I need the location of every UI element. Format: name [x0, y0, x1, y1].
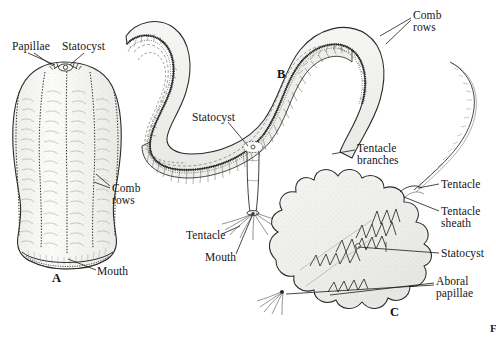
label-text: Statocyst	[62, 40, 105, 52]
label-text: Tentacle	[441, 178, 481, 190]
label-text: Papillae	[12, 40, 50, 52]
label-statocyst-b: Statocyst	[192, 112, 235, 124]
label-text: Statocyst	[441, 247, 484, 259]
label-comb-rows-a: Comb rows	[112, 182, 158, 206]
organism-b-tentacle	[222, 212, 277, 240]
leader-comb-rows-b-2	[386, 20, 411, 44]
panel-letter-text: A	[52, 271, 61, 285]
panel-letter-text: B	[277, 67, 285, 81]
label-line-2: rows	[112, 194, 135, 206]
statocyst-marker-a	[63, 65, 67, 69]
corner-mark-text: F	[490, 322, 496, 334]
label-line-2: rows	[413, 21, 436, 33]
label-aboral-papillae: Aboral papillae	[436, 275, 494, 299]
label-text: Mouth	[97, 265, 128, 277]
leader-papillae-a-2	[34, 53, 53, 66]
label-line-2: branches	[357, 154, 399, 166]
leader-comb-rows-b	[380, 18, 411, 36]
panel-letter-text: C	[390, 305, 399, 319]
panel-letter-b: B	[277, 67, 285, 82]
label-tentacle-branches: Tentacle branches	[357, 142, 415, 166]
organism-b-mouth-region	[247, 152, 259, 215]
label-statocyst-a: Statocyst	[62, 41, 105, 53]
organism-c-oral-tuft	[257, 290, 284, 315]
label-mouth-a: Mouth	[97, 266, 128, 278]
label-papillae-a: Papillae	[12, 41, 50, 53]
label-comb-rows-b: Comb rows	[413, 9, 461, 33]
label-tentacle-sheath: Tentacle sheath	[441, 205, 495, 229]
label-line-2: papillae	[436, 287, 473, 299]
leader-papillae-a	[28, 53, 55, 65]
label-mouth-b: Mouth	[205, 252, 236, 264]
corner-mark: F	[490, 322, 496, 334]
label-line-1: Tentacle	[357, 142, 397, 154]
label-line-1: Comb	[413, 9, 442, 21]
label-line-2: sheath	[441, 217, 471, 229]
label-text: Mouth	[205, 251, 236, 263]
ctenophore-figure: Papillae Statocyst Comb rows Mouth Comb …	[0, 0, 496, 338]
organism-a	[13, 62, 121, 269]
organism-c-tentacle	[414, 62, 476, 192]
label-tentacle-b: Tentacle	[186, 230, 226, 242]
label-text: Statocyst	[192, 111, 235, 123]
label-line-1: Aboral	[436, 275, 469, 287]
panel-letter-a: A	[52, 271, 61, 286]
panel-letter-c: C	[390, 305, 399, 320]
label-statocyst-c: Statocyst	[441, 248, 484, 260]
label-tentacle-c: Tentacle	[441, 179, 481, 191]
label-line-1: Tentacle	[441, 205, 481, 217]
label-text: Tentacle	[186, 229, 226, 241]
label-line-1: Comb	[112, 182, 141, 194]
